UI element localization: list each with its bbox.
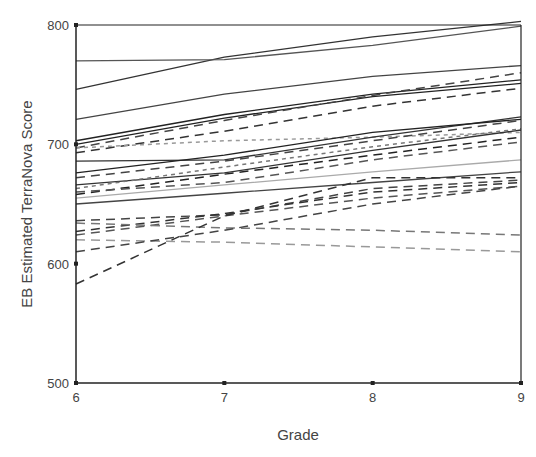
- series-line: [76, 223, 521, 235]
- series-line: [76, 73, 521, 148]
- series-line: [76, 88, 521, 152]
- y-tick-mark: [74, 142, 78, 146]
- x-tick-mark: [222, 381, 226, 385]
- x-tick-mark: [74, 381, 78, 385]
- series-line: [76, 186, 521, 252]
- series-line: [76, 26, 521, 61]
- x-tick-label: 6: [72, 390, 79, 405]
- x-axis-title: Grade: [277, 426, 319, 443]
- y-tick-label: 500: [47, 376, 69, 391]
- y-tick-mark: [74, 262, 78, 266]
- axes: [76, 25, 521, 383]
- x-tick-mark: [371, 381, 375, 385]
- x-tick-mark: [519, 381, 523, 385]
- x-tick-labels: 6789: [72, 381, 524, 405]
- y-tick-label: 800: [47, 18, 69, 33]
- y-tick-mark: [74, 23, 78, 27]
- series-line: [76, 183, 521, 232]
- y-axis-title: EB Estimated TerraNova Score: [18, 100, 35, 307]
- x-tick-label: 7: [221, 390, 228, 405]
- y-tick-labels: 500600700800: [47, 18, 78, 391]
- series-lines: [76, 21, 521, 284]
- series-line: [76, 21, 521, 89]
- line-chart: 500600700800 6789 Grade EB Estimated Ter…: [0, 0, 536, 457]
- y-tick-label: 700: [47, 137, 69, 152]
- x-tick-label: 8: [369, 390, 376, 405]
- series-line: [76, 66, 521, 120]
- y-tick-label: 600: [47, 257, 69, 272]
- x-tick-label: 9: [517, 390, 524, 405]
- series-line: [76, 129, 521, 189]
